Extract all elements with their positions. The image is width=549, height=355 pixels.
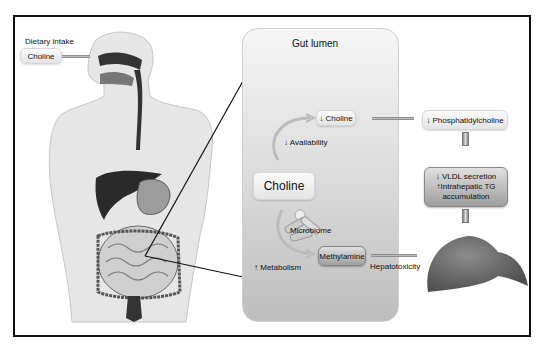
liver-icon <box>0 0 549 355</box>
